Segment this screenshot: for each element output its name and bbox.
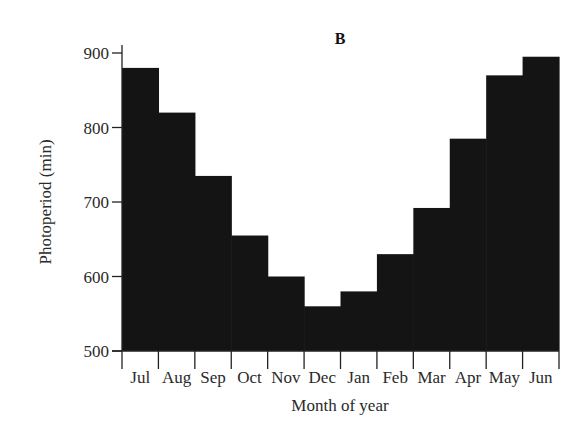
y-axis: 500600700800900 bbox=[84, 44, 123, 361]
y-tick-label: 600 bbox=[84, 268, 110, 287]
y-tick-label: 900 bbox=[84, 44, 110, 63]
y-tick-label: 800 bbox=[84, 119, 110, 138]
x-tick-label: Oct bbox=[237, 368, 262, 387]
bar-may bbox=[486, 75, 523, 351]
y-tick-label: 700 bbox=[84, 193, 110, 212]
panel-label: B bbox=[335, 30, 346, 47]
x-axis-title: Month of year bbox=[291, 396, 389, 415]
bar-aug bbox=[158, 113, 195, 351]
bar-dec bbox=[304, 306, 341, 351]
x-tick-label: Jun bbox=[529, 368, 553, 387]
x-tick-label: Feb bbox=[382, 368, 408, 387]
x-axis: JulAugSepOctNovDecJanFebMarAprMayJun bbox=[112, 351, 559, 387]
x-tick-label: Sep bbox=[200, 368, 226, 387]
x-tick-label: Jul bbox=[130, 368, 150, 387]
x-tick-label: Dec bbox=[309, 368, 337, 387]
bar-nov bbox=[268, 277, 305, 352]
bar-sep bbox=[195, 176, 232, 351]
bar-jan bbox=[341, 291, 378, 351]
x-tick-label: Nov bbox=[271, 368, 301, 387]
y-axis-title: Photoperiod (min) bbox=[36, 139, 55, 264]
bar-apr bbox=[450, 139, 487, 351]
bar-oct bbox=[231, 236, 268, 351]
bar-mar bbox=[413, 208, 450, 351]
bar-jul bbox=[122, 68, 159, 351]
x-tick-label: Aug bbox=[162, 368, 192, 387]
bars bbox=[122, 57, 560, 351]
bar-feb bbox=[377, 254, 414, 351]
bar-jun bbox=[523, 57, 560, 351]
x-tick-label: May bbox=[489, 368, 521, 387]
photoperiod-bar-chart: B 500600700800900 JulAugSepOctNovDecJanF… bbox=[0, 0, 583, 440]
y-tick-label: 500 bbox=[84, 342, 110, 361]
x-tick-label: Mar bbox=[417, 368, 446, 387]
x-tick-label: Apr bbox=[455, 368, 482, 387]
x-tick-label: Jan bbox=[347, 368, 370, 387]
